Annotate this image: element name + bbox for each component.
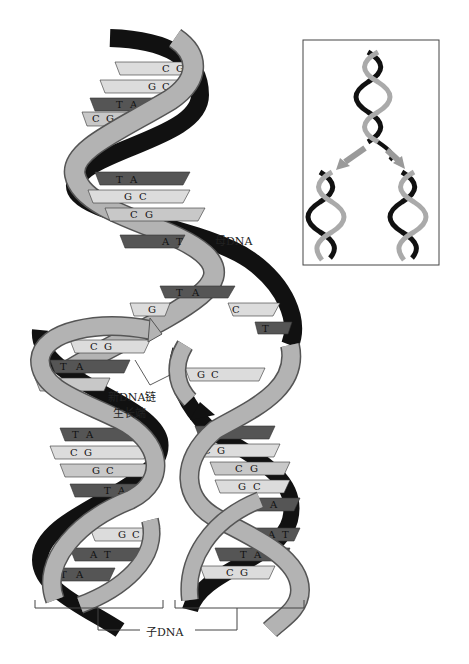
svg-text:G: G bbox=[124, 191, 132, 202]
svg-text:C: C bbox=[90, 341, 98, 352]
svg-text:G: G bbox=[148, 81, 156, 92]
right-daughter-helix: GC AT CG CG GC A AT TA CG bbox=[177, 345, 300, 630]
svg-text:C: C bbox=[106, 465, 114, 476]
svg-text:G: G bbox=[104, 341, 112, 352]
svg-text:G: G bbox=[148, 304, 156, 315]
growth-end-pointers bbox=[135, 360, 170, 385]
svg-text:C: C bbox=[132, 529, 140, 540]
svg-text:T: T bbox=[104, 485, 111, 496]
svg-text:C: C bbox=[92, 113, 100, 124]
svg-text:T: T bbox=[104, 549, 111, 560]
svg-text:A: A bbox=[89, 549, 98, 560]
svg-text:T: T bbox=[116, 174, 123, 185]
svg-text:C: C bbox=[211, 369, 219, 380]
svg-text:T: T bbox=[116, 99, 123, 110]
svg-text:G: G bbox=[92, 465, 100, 476]
svg-text:G: G bbox=[240, 567, 248, 578]
svg-text:A: A bbox=[75, 569, 84, 580]
svg-text:A: A bbox=[161, 236, 170, 247]
svg-text:T: T bbox=[176, 287, 183, 298]
svg-text:G: G bbox=[217, 445, 225, 456]
svg-text:T: T bbox=[262, 323, 269, 334]
svg-text:A: A bbox=[75, 361, 84, 372]
left-daughter-helix: A CG TA CG TA CG GC TA GC AT TA bbox=[35, 318, 162, 630]
svg-text:T: T bbox=[60, 361, 67, 372]
svg-text:A: A bbox=[191, 287, 200, 298]
svg-text:T: T bbox=[282, 529, 289, 540]
svg-text:A: A bbox=[129, 174, 138, 185]
svg-text:C: C bbox=[139, 191, 147, 202]
svg-text:C: C bbox=[232, 304, 240, 315]
svg-text:C: C bbox=[235, 463, 243, 474]
svg-text:G: G bbox=[145, 209, 153, 220]
svg-text:G: G bbox=[238, 481, 246, 492]
dna-replication-diagram: CG GC TA CG TA GC CG AT TA C T G A CG TA bbox=[0, 0, 469, 664]
svg-text:G: G bbox=[84, 447, 92, 458]
svg-text:G: G bbox=[197, 369, 205, 380]
svg-text:G: G bbox=[250, 463, 258, 474]
growth-end-label-line2: 生长端 bbox=[113, 404, 146, 420]
svg-text:C: C bbox=[162, 63, 170, 74]
svg-text:A: A bbox=[85, 429, 94, 440]
svg-text:C: C bbox=[253, 481, 261, 492]
svg-text:T: T bbox=[72, 429, 79, 440]
svg-text:C: C bbox=[70, 447, 78, 458]
growth-end-label-line1: 新DNA链 bbox=[108, 388, 156, 404]
inset-overview bbox=[303, 40, 439, 265]
svg-text:A: A bbox=[269, 499, 278, 510]
svg-text:C: C bbox=[130, 209, 138, 220]
svg-text:T: T bbox=[240, 549, 247, 560]
svg-text:C: C bbox=[226, 567, 234, 578]
daughter-dna-label: 子DNA bbox=[146, 623, 183, 639]
svg-text:T: T bbox=[176, 236, 183, 247]
svg-text:G: G bbox=[118, 529, 126, 540]
parent-dna-label: 母DNA bbox=[215, 232, 252, 248]
